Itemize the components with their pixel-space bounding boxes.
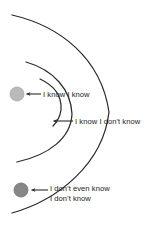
label-unknown-unknowns: I don't even know I don't know [50, 184, 110, 203]
known-knowns-dot [10, 87, 24, 101]
label-unknown-unknowns-line1: I don't even know [50, 184, 110, 193]
label-known-knowns: I know I know [43, 90, 90, 100]
knowledge-diagram: I know I know I know I don't know I don'… [0, 0, 160, 228]
unknown-unknowns-dot [14, 183, 28, 197]
inner-arc [40, 79, 61, 126]
label-unknown-unknowns-line2: I don't know [50, 194, 110, 204]
middle-arc [17, 62, 72, 162]
label-known-unknowns: I know I don't know [75, 117, 140, 127]
